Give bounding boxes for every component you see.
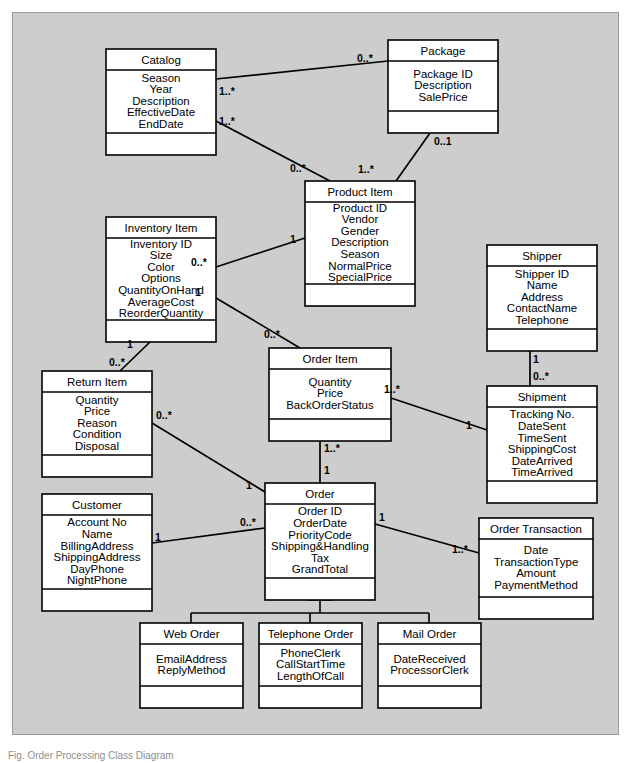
class-attribute: ReplyMethod (158, 664, 226, 676)
class-attribute: PhoneClerk (280, 647, 340, 659)
class-attribute: EffectiveDate (127, 106, 195, 118)
class-name: Shipper (522, 250, 562, 262)
class-attribute: Season (141, 72, 180, 84)
class-name: Customer (72, 499, 122, 511)
class-attribute: Name (82, 528, 113, 540)
class-attribute: TimeSent (518, 432, 568, 444)
multiplicity-target-orderitem-shipment: 1 (466, 419, 472, 431)
class-catalog[interactable]: CatalogSeasonYearDescriptionEffectiveDat… (106, 49, 216, 155)
class-order[interactable]: OrderOrder IDOrderDatePriorityCodeShippi… (265, 483, 375, 600)
class-attribute: Telephone (515, 314, 568, 326)
multiplicity-target-catalog-package: 0..* (357, 52, 374, 64)
class-attribute: Product ID (333, 202, 387, 214)
class-attribute: Price (317, 387, 343, 399)
multiplicity-source-orderitem-order: 1..* (324, 442, 341, 454)
class-attribute: Date (524, 544, 548, 556)
class-attribute: Price (84, 405, 110, 417)
association-orderitem-shipment (391, 398, 487, 430)
class-attribute: Quantity (309, 376, 352, 388)
class-attribute: NightPhone (67, 574, 127, 586)
class-attribute: GrandTotal (292, 563, 348, 575)
class-attribute: DayPhone (70, 563, 124, 575)
class-attribute: LengthOfCall (277, 670, 344, 682)
uml-class-diagram: CatalogSeasonYearDescriptionEffectiveDat… (0, 0, 631, 763)
class-attribute: Gender (341, 225, 380, 237)
class-attribute: OrderDate (293, 517, 347, 529)
class-name: Return Item (67, 376, 127, 388)
class-attribute: DateArrived (512, 455, 573, 467)
class-attribute: Options (141, 272, 181, 284)
class-attribute: DateSent (518, 420, 567, 432)
class-name: Order (305, 488, 335, 500)
class-attribute: Year (149, 83, 172, 95)
class-attribute: Description (414, 79, 472, 91)
class-attribute: Tax (311, 552, 329, 564)
class-attribute: ContactName (507, 302, 577, 314)
multiplicity-source-order-transaction: 1 (379, 511, 385, 523)
class-attribute: BackOrderStatus (286, 399, 374, 411)
class-attribute: Address (521, 291, 563, 303)
class-attribute: Shipping&Handling (271, 540, 369, 552)
class-attribute: ProcessorClerk (390, 664, 469, 676)
class-name: Order Item (303, 353, 358, 365)
class-attribute: Order ID (298, 505, 342, 517)
class-customer[interactable]: CustomerAccount NoNameBillingAddressShip… (42, 494, 152, 611)
multiplicity-source-package-product: 0..1 (434, 135, 452, 147)
class-name: Mail Order (403, 628, 457, 640)
class-attribute: ReorderQuantity (119, 307, 204, 319)
class-order_transaction[interactable]: Order TransactionDateTransactionTypeAmou… (479, 518, 593, 619)
class-order_item[interactable]: Order ItemQuantityPriceBackOrderStatus (269, 348, 391, 441)
class-attribute: Shipper ID (515, 268, 569, 280)
class-return_item[interactable]: Return ItemQuantityPriceReasonConditionD… (42, 371, 152, 477)
multiplicity-target-inventory-product: 1 (290, 233, 296, 245)
class-attribute: EmailAddress (156, 653, 227, 665)
class-attribute: Amount (516, 567, 556, 579)
class-attribute: BillingAddress (61, 540, 134, 552)
class-product_item[interactable]: Product ItemProduct IDVendorGenderDescri… (305, 181, 415, 306)
class-inventory_item[interactable]: Inventory ItemInventory IDSizeColorOptio… (106, 217, 216, 342)
class-name: Catalog (141, 54, 181, 66)
multiplicity-source-inventory-product: 0..* (191, 256, 208, 268)
class-shipment[interactable]: ShipmentTracking No.DateSentTimeSentShip… (487, 386, 597, 503)
multiplicity-source-returnitem-order: 0..* (156, 409, 173, 421)
multiplicity-target-catalog-product: 0..* (290, 162, 307, 174)
class-attribute: ShippingAddress (54, 551, 141, 563)
class-shipper[interactable]: ShipperShipper IDNameAddressContactNameT… (487, 245, 597, 351)
class-attribute: Vendor (342, 213, 379, 225)
association-customer-order (152, 528, 265, 543)
association-package-product (396, 133, 430, 181)
class-attribute: AverageCost (128, 296, 195, 308)
class-attribute: Quantity (76, 394, 119, 406)
class-name: Telephone Order (268, 628, 354, 640)
association-line (152, 528, 265, 543)
class-attribute: DateReceived (393, 653, 465, 665)
class-attribute: QuantityOnHand (118, 284, 204, 296)
multiplicity-source-catalog-package: 1..* (219, 85, 236, 97)
multiplicity-target-package-product: 1..* (358, 163, 375, 175)
class-telephone_order[interactable]: Telephone OrderPhoneClerkCallStartTimeLe… (259, 623, 362, 708)
multiplicity-source-customer-order: 1 (155, 531, 161, 543)
class-package[interactable]: PackagePackage IDDescriptionSalePrice (388, 40, 498, 133)
class-name: Order Transaction (490, 523, 582, 535)
class-web_order[interactable]: Web OrderEmailAddressReplyMethod (140, 623, 243, 708)
class-attribute: Inventory ID (130, 238, 192, 250)
class-attribute: Season (340, 248, 379, 260)
association-line (216, 298, 300, 348)
multiplicity-source-inventory-orderitem: 1 (195, 286, 201, 298)
class-attribute: Size (150, 249, 172, 261)
class-name: Shipment (518, 391, 567, 403)
class-attribute: PriorityCode (288, 529, 351, 541)
class-attribute: Tracking No. (510, 408, 575, 420)
multiplicity-target-inventory-orderitem: 0..* (264, 328, 281, 340)
class-attribute: SalePrice (418, 91, 467, 103)
multiplicity-target-inventory-returnitem: 0..* (109, 356, 126, 368)
class-attribute: Account No (67, 516, 126, 528)
class-mail_order[interactable]: Mail OrderDateReceivedProcessorClerk (378, 623, 481, 708)
class-attribute: TimeArrived (511, 466, 573, 478)
multiplicity-target-orderitem-order: 1 (324, 464, 330, 476)
multiplicity-target-returnitem-order: 1 (246, 479, 252, 491)
class-attribute: NormalPrice (328, 260, 391, 272)
class-attribute: ShippingCost (508, 443, 577, 455)
multiplicity-source-catalog-product: 1..* (219, 115, 236, 127)
class-attribute: Name (527, 279, 558, 291)
